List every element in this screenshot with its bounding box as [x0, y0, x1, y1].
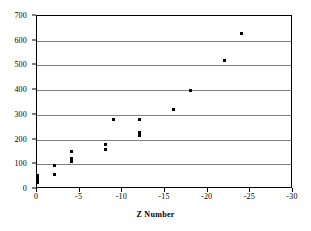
x-tick-mark [79, 188, 80, 192]
data-point [70, 157, 73, 160]
data-point [138, 131, 141, 134]
y-tick-label: 100 [14, 159, 27, 168]
data-point [189, 89, 192, 92]
data-point [53, 173, 56, 176]
y-tick-label: 200 [14, 134, 27, 143]
gridline [37, 115, 291, 116]
y-tick-label: 500 [14, 60, 27, 69]
x-tick-label: -30 [286, 192, 297, 201]
gridline [37, 65, 291, 66]
x-axis: 0-5-10-15-20-25-30 [0, 190, 311, 204]
x-tick-label: 0 [34, 192, 38, 201]
x-tick-mark [207, 188, 208, 192]
y-tick-label: 700 [14, 11, 27, 20]
y-tick-label: 600 [14, 35, 27, 44]
data-point [104, 148, 107, 151]
data-point [138, 118, 141, 121]
scatter-chart: 0100200300400500600700 0-5-10-15-20-25-3… [0, 0, 311, 231]
data-point [172, 108, 175, 111]
x-tick-mark [164, 188, 165, 192]
gridline [37, 90, 291, 91]
x-tick-label: -15 [158, 192, 169, 201]
y-tick-label: 400 [14, 85, 27, 94]
data-point [240, 32, 243, 35]
x-tick-mark [292, 188, 293, 192]
x-tick-mark [121, 188, 122, 192]
x-tick-label: -25 [244, 192, 255, 201]
y-axis-line [36, 15, 37, 188]
x-tick-label: -5 [75, 192, 82, 201]
gridline [37, 140, 291, 141]
x-tick-label: -20 [201, 192, 212, 201]
data-point [138, 134, 141, 137]
data-point [70, 150, 73, 153]
data-point [223, 59, 226, 62]
x-tick-label: -10 [116, 192, 127, 201]
x-tick-mark [249, 188, 250, 192]
y-tick-label: 300 [14, 109, 27, 118]
gridline [37, 164, 291, 165]
data-point [104, 143, 107, 146]
plot-area [36, 15, 292, 188]
gridline [37, 41, 291, 42]
x-axis-title: Z Number [0, 210, 311, 219]
data-point [53, 164, 56, 167]
x-tick-mark [36, 188, 37, 192]
data-point [112, 118, 115, 121]
